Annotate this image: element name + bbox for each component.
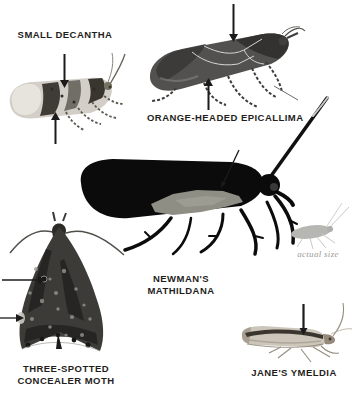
moth-guide-figure: SMALL DECANTHA ORANGE-HEADED EPICALLIMA … (0, 0, 358, 398)
small-decantha-antennae-icon (108, 53, 125, 84)
ymeldia-body-icon (242, 326, 326, 347)
actual-size-silhouette-photo (285, 198, 357, 254)
epicallima-bottom-arrow-icon (202, 78, 215, 110)
concealer-label-line1: THREE-SPOTTED (15, 363, 117, 375)
mathildana-antenna-icon (271, 97, 328, 176)
janes-ymeldia-label: JANE'S YMELDIA (243, 367, 345, 379)
concealer-palps-icon (53, 212, 66, 221)
small-decantha-bottom-arrow-icon (49, 112, 62, 144)
small-decantha-top-arrow-icon (58, 54, 71, 88)
concealer-label-line2: CONCEALER MOTH (15, 375, 117, 387)
epicallima-wing-icon (150, 34, 289, 91)
ymeldia-arrow-icon (297, 304, 310, 335)
mathildana-patch-arrow-icon (212, 146, 244, 194)
epicallima-top-arrow-icon (227, 4, 240, 42)
concealer-upper-arrow-icon (2, 274, 46, 286)
silhouette-antennae-icon (327, 203, 349, 228)
silhouette-body-icon (290, 223, 331, 241)
ymeldia-antennae-icon (331, 303, 352, 336)
concealer-lower-arrow-icon (0, 312, 24, 324)
newmans-mathildana-label: NEWMAN'S MATHILDANA (139, 273, 223, 296)
newmans-mathildana-label-line2: MATHILDANA (139, 285, 223, 297)
concealer-wings-icon (17, 227, 103, 351)
ymeldia-legs-icon (269, 346, 339, 362)
small-decantha-label: SMALL DECANTHA (14, 29, 116, 41)
orange-headed-epicallima-label: ORANGE-HEADED EPICALLIMA (147, 112, 297, 124)
janes-ymeldia-photo (235, 296, 355, 368)
actual-size-caption: actual size (287, 249, 349, 260)
three-spotted-concealer-moth-label: THREE-SPOTTED CONCEALER MOTH (15, 363, 117, 386)
newmans-mathildana-label-line1: NEWMAN'S (139, 273, 223, 285)
silhouette-head-icon (327, 226, 333, 232)
